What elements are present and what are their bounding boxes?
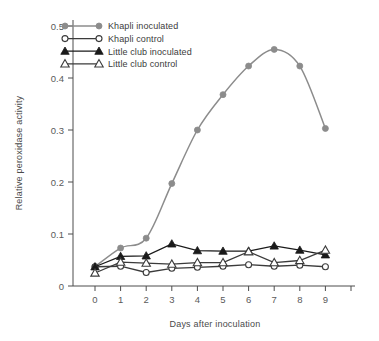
series-1 [92, 262, 328, 276]
x-axis-ticks [95, 286, 351, 291]
x-tick-label: 4 [195, 294, 200, 305]
peroxidase-activity-figure: 00.10.20.30.40.5 0123456789 Days after i… [0, 0, 379, 341]
x-axis-title: Days after inoculation [170, 319, 261, 329]
data-series-layer [91, 46, 330, 276]
y-axis-ticks [68, 26, 73, 286]
data-point-filled-circle [143, 235, 149, 241]
x-tick-label: 2 [144, 294, 149, 305]
data-point-open-circle [143, 269, 149, 275]
series-0 [92, 46, 328, 269]
data-point-open-triangle [321, 246, 329, 253]
x-tick-label: 0 [92, 294, 97, 305]
y-tick-label: 0.1 [51, 229, 64, 240]
series-line [95, 265, 325, 273]
line-chart-plot: 00.10.20.30.40.5 0123456789 Days after i… [0, 0, 379, 341]
data-point-open-circle [96, 36, 102, 42]
y-axis-tick-labels: 00.10.20.30.40.5 [51, 21, 64, 292]
chart-legend: Khapli inoculatedKhapli controlLittle cl… [61, 21, 192, 69]
legend-label: Khapli inoculated [108, 21, 178, 31]
data-point-filled-circle [169, 181, 175, 187]
data-point-filled-circle [246, 63, 252, 69]
legend-label: Little club control [108, 59, 177, 69]
data-point-filled-circle [220, 92, 226, 98]
series-line [95, 250, 325, 273]
data-point-filled-circle [96, 23, 102, 29]
legend-item-2: Little club inoculated [61, 47, 192, 57]
data-point-filled-circle [322, 125, 328, 131]
x-axis-tick-labels: 0123456789 [92, 294, 328, 305]
x-tick-label: 6 [246, 294, 251, 305]
y-axis-title: Relative peroxidase activity [14, 95, 24, 210]
legend-item-1: Khapli control [62, 34, 164, 44]
x-tick-label: 5 [220, 294, 225, 305]
data-point-filled-triangle [270, 242, 278, 249]
y-tick-label: 0.2 [51, 177, 64, 188]
data-point-open-circle [322, 264, 328, 270]
data-point-filled-triangle [168, 240, 176, 247]
legend-item-3: Little club control [61, 59, 178, 69]
data-point-filled-circle [271, 46, 277, 52]
y-tick-label: 0.4 [51, 73, 64, 84]
y-tick-label: 0.3 [51, 125, 64, 136]
series-line [95, 244, 325, 267]
legend-label: Khapli control [108, 34, 164, 44]
data-point-filled-circle [118, 245, 124, 251]
data-point-open-circle [62, 36, 68, 42]
x-tick-label: 8 [297, 294, 302, 305]
data-point-filled-circle [297, 63, 303, 69]
series-line [95, 49, 325, 266]
y-tick-label: 0 [59, 281, 64, 292]
legend-item-0: Khapli inoculated [62, 21, 178, 31]
x-tick-label: 3 [169, 294, 174, 305]
data-point-open-circle [246, 262, 252, 268]
legend-label: Little club inoculated [108, 47, 192, 57]
x-tick-label: 1 [118, 294, 123, 305]
x-tick-label: 7 [272, 294, 277, 305]
data-point-filled-circle [194, 127, 200, 133]
data-point-filled-circle [62, 23, 68, 29]
x-tick-label: 9 [323, 294, 328, 305]
